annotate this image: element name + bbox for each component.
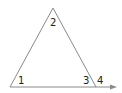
- angle-label-1: 1: [18, 76, 24, 86]
- angle-label-3: 3: [83, 76, 89, 86]
- angle-label-4: 4: [97, 76, 103, 86]
- arrowhead-icon: [110, 85, 117, 90]
- triangle-diagram: 1 2 3 4: [0, 0, 122, 93]
- angle-label-2: 2: [50, 18, 56, 28]
